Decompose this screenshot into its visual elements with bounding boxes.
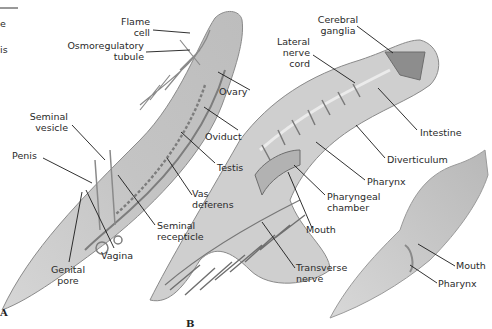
panel-label-b: B xyxy=(186,318,194,329)
label-line: deferens xyxy=(192,199,234,210)
label-transverse-nerve: Transverse nerve xyxy=(296,262,347,284)
label-line: Cerebral xyxy=(312,14,364,25)
label-ovary: Ovary xyxy=(219,86,247,97)
label-exterior-pharynx: Pharynx xyxy=(438,278,477,289)
label-line: recepticle xyxy=(157,231,204,242)
label-pharyngeal-chamber: Pharyngeal chamber xyxy=(327,191,380,213)
label-line: tubule xyxy=(64,51,144,62)
label-line: Flame xyxy=(110,16,150,27)
label-line: nerve xyxy=(265,47,310,58)
label-line: pore xyxy=(48,275,88,286)
label-pharynx: Pharynx xyxy=(367,176,406,187)
label-line: Osmoregulatory xyxy=(64,40,144,51)
label-line: Vas xyxy=(192,188,234,199)
label-vagina: Vagina xyxy=(101,250,133,261)
label-mouth: Mouth xyxy=(306,224,336,235)
label-line: ganglia xyxy=(312,25,364,36)
label-lateral-nerve-cord: Lateral nerve cord xyxy=(265,36,310,69)
label-line: Lateral xyxy=(265,36,310,47)
label-intestine: Intestine xyxy=(420,127,462,138)
label-seminal-recepticle: Seminal recepticle xyxy=(157,220,204,242)
label-osmoregulatory-tubule: Osmoregulatory tubule xyxy=(64,40,144,62)
label-line: Pharyngeal xyxy=(327,191,380,202)
label-line: cell xyxy=(110,27,150,38)
label-line: chamber xyxy=(327,202,380,213)
worm-c-body xyxy=(330,150,488,318)
label-flame-cell: Flame cell xyxy=(110,16,150,38)
cropped-text-fragment: e xyxy=(0,18,6,29)
label-line: cord xyxy=(265,58,310,69)
cropped-text-fragment: is xyxy=(0,44,8,55)
label-line: Seminal xyxy=(157,220,204,231)
label-exterior-mouth: Mouth xyxy=(456,260,486,271)
label-genital-pore: Genital pore xyxy=(48,264,88,286)
label-line: vesicle xyxy=(20,122,68,133)
label-line: Transverse xyxy=(296,262,347,273)
label-line: nerve xyxy=(296,273,347,284)
panel-label-a: A xyxy=(0,307,8,318)
label-oviduct: Oviduct xyxy=(205,131,242,142)
label-penis: Penis xyxy=(12,150,37,161)
label-seminal-vesicle: Seminal vesicle xyxy=(20,111,68,133)
label-cerebral-ganglia: Cerebral ganglia xyxy=(312,14,364,36)
label-diverticulum: Diverticulum xyxy=(387,154,448,165)
label-testis: Testis xyxy=(217,162,243,173)
label-line: Seminal xyxy=(20,111,68,122)
label-line: Genital xyxy=(48,264,88,275)
label-vas-deferens: Vas deferens xyxy=(192,188,234,210)
